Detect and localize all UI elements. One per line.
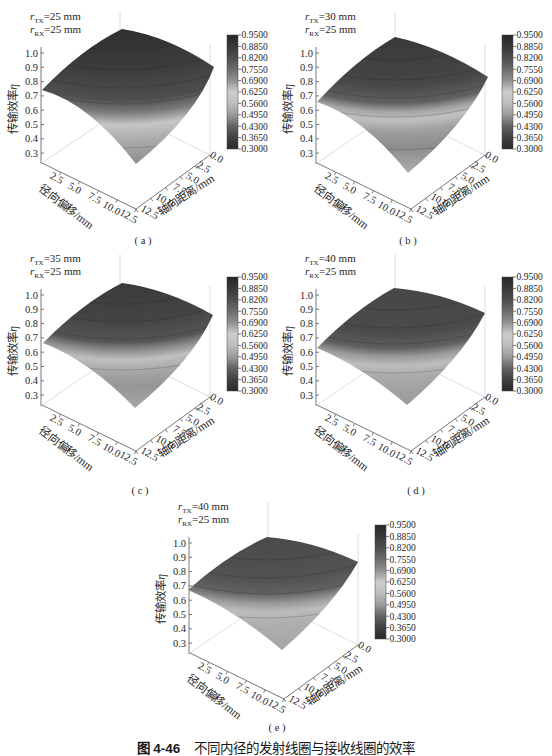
panel-caption: ( e ) (269, 722, 286, 734)
radial-offset-axis: 2.55.07.510.012.5径向偏移/mm (37, 405, 140, 473)
eta-symbol: η (7, 326, 20, 332)
colorbar-tick-label: 0.7550 (390, 555, 416, 565)
param-value: =35 mm (44, 252, 82, 264)
z-axis-title: 传输效率η (154, 574, 168, 624)
param-subscript: TX (34, 17, 43, 25)
z-tick-label: 0.7 (300, 332, 313, 343)
radial-tick-label: 2.5 (48, 412, 65, 428)
colorbar-tick-label: 0.7550 (517, 65, 543, 75)
colorbar-tick-label: 0.3000 (242, 386, 268, 396)
colorbar: 0.95000.88500.82000.75500.69000.62500.56… (375, 520, 416, 644)
z-tick-label: 0.9 (173, 552, 186, 563)
z-tick-label: 0.7 (25, 332, 38, 343)
z-tick-label: 0.3 (25, 148, 38, 159)
param-subscript: RX (34, 272, 44, 280)
z-tick-label: 0.7 (25, 90, 38, 101)
colorbar-tick-label: 0.4950 (517, 110, 543, 120)
z-tick-label: 1.0 (25, 48, 38, 59)
colorbar-tick-label: 0.9500 (390, 520, 416, 530)
colorbar-gradient (227, 277, 238, 391)
z-axis: 1.00.90.80.70.60.50.40.3 (300, 289, 319, 406)
z-tick-label: 0.9 (300, 304, 313, 315)
z-tick-label: 1.0 (25, 290, 38, 301)
z-axis-title: 传输效率η (6, 326, 20, 376)
colorbar-tick-label: 0.9500 (517, 30, 543, 40)
z-title-text: 传输效率 (6, 90, 19, 134)
z-axis: 1.00.90.80.70.60.50.40.3 (25, 289, 44, 406)
colorbar-tick-label: 0.5600 (242, 341, 268, 351)
colorbar-tick-label: 0.3650 (242, 133, 268, 143)
z-axis: 1.00.90.80.70.60.50.40.3 (173, 537, 192, 654)
colorbar-tick-label: 0.9500 (242, 30, 268, 40)
z-tick-label: 0.4 (25, 133, 39, 144)
z-tick-label: 0.4 (25, 375, 39, 386)
colorbar-tick-label: 0.8200 (242, 53, 268, 63)
z-axis-title: 传输效率η (6, 84, 20, 134)
colorbar-tick-label: 0.4950 (390, 600, 416, 610)
colorbar-tick-label: 0.6900 (242, 318, 268, 328)
z-tick-label: 0.8 (173, 566, 186, 577)
colorbar-gradient (502, 35, 513, 149)
radial-tick-label: 7.5 (86, 190, 103, 206)
colorbar-tick-label: 0.6900 (242, 76, 268, 86)
colorbar-tick-label: 0.4950 (242, 352, 268, 362)
colorbar-tick-label: 0.8200 (242, 295, 268, 305)
axial-tick-label: 0.0 (356, 639, 373, 655)
z-tick-label: 0.6 (25, 347, 38, 358)
z-tick-label: 0.3 (25, 390, 38, 401)
colorbar-tick-label: 0.8850 (242, 284, 268, 294)
param-subscript: TX (34, 259, 43, 267)
efficiency-surface (43, 283, 213, 408)
surface-plot-panel-c: 1.00.90.80.70.60.50.40.3传输效率η2.55.07.510… (0, 242, 277, 498)
z-tick-label: 0.7 (173, 580, 186, 591)
colorbar-tick-label: 0.4300 (242, 364, 268, 374)
param-label-rx: rRX=25 mm (305, 265, 357, 280)
figure-caption: 图 4-46不同内径的发射线圈与接收线圈的效率 (0, 737, 552, 756)
colorbar-tick-label: 0.9500 (242, 272, 268, 282)
param-value: =40 mm (319, 252, 357, 264)
colorbar-tick-label: 0.6250 (390, 577, 416, 587)
radial-tick-label: 7.5 (361, 190, 378, 206)
param-value: =25 mm (319, 265, 357, 277)
z-tick-label: 0.5 (300, 361, 313, 372)
z-title-text: 传输效率 (154, 580, 167, 624)
z-tick-label: 1.0 (300, 48, 313, 59)
param-value: =25 mm (44, 10, 82, 22)
eta-symbol: η (282, 84, 295, 90)
colorbar: 0.95000.88500.82000.75500.69000.62500.56… (502, 272, 543, 396)
eta-symbol: η (155, 574, 168, 580)
colorbar-gradient (227, 35, 238, 149)
colorbar-tick-label: 0.5600 (517, 99, 543, 109)
colorbar-tick-label: 0.3650 (517, 375, 543, 385)
z-tick-label: 0.8 (300, 318, 313, 329)
z-tick-label: 1.0 (300, 290, 313, 301)
param-value: =40 mm (192, 500, 230, 512)
colorbar-tick-label: 0.6900 (517, 318, 543, 328)
colorbar-tick-label: 0.5600 (517, 341, 543, 351)
colorbar-tick-label: 0.7550 (517, 307, 543, 317)
param-subscript: RX (309, 272, 319, 280)
z-tick-label: 0.9 (300, 62, 313, 73)
radial-tick-label: 2.5 (323, 412, 340, 428)
z-tick-label: 0.6 (300, 105, 313, 116)
surface-plot-panel-e: 1.00.90.80.70.60.50.40.3传输效率η2.55.07.510… (148, 490, 425, 746)
axial-distance-axis: 0.02.55.07.510.012.5轴向距离/mm (136, 149, 225, 221)
param-label-rx: rRX=25 mm (30, 265, 82, 280)
z-tick-label: 1.0 (173, 538, 186, 549)
z-tick-label: 0.3 (173, 638, 186, 649)
param-subscript: RX (182, 520, 192, 528)
radial-tick-label: 2.5 (196, 660, 213, 676)
colorbar-tick-label: 0.6250 (517, 87, 543, 97)
colorbar-tick-label: 0.3650 (517, 133, 543, 143)
colorbar-tick-label: 0.6900 (390, 566, 416, 576)
axial-distance-axis: 0.02.55.07.510.012.5轴向距离/mm (411, 391, 500, 463)
param-subscript: RX (309, 30, 319, 38)
param-subscript: TX (309, 17, 318, 25)
colorbar-tick-label: 0.8200 (390, 543, 416, 553)
z-tick-label: 0.3 (300, 390, 313, 401)
z-tick-label: 0.4 (300, 375, 314, 386)
param-subscript: TX (182, 507, 191, 515)
param-label-rx: rRX=25 mm (30, 23, 82, 38)
z-tick-label: 0.5 (25, 119, 38, 130)
surface-plot-panel-d: 1.00.90.80.70.60.50.40.3传输效率η2.55.07.510… (275, 242, 552, 498)
